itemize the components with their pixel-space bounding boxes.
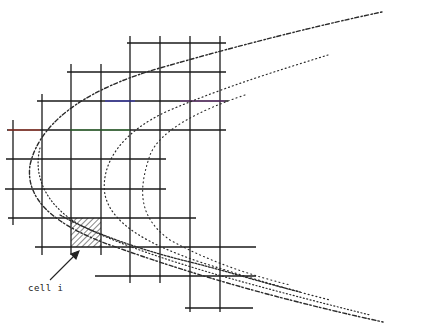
grid-diagram xyxy=(0,0,436,327)
cell-label: cell i xyxy=(28,283,64,293)
arrow-icon xyxy=(50,251,79,280)
curve-inner-2 xyxy=(143,95,290,285)
curve-inner xyxy=(104,55,330,300)
colored-grid-overlays xyxy=(8,101,225,130)
